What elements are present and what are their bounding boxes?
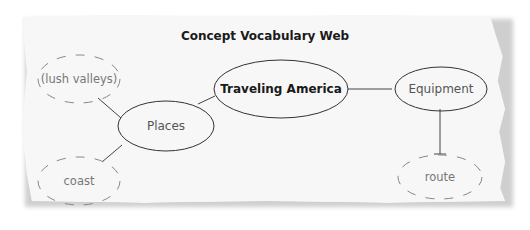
node-places[interactable]: Places xyxy=(118,101,214,151)
node-label-traveling-america: Traveling America xyxy=(220,82,342,96)
edge-center-places xyxy=(198,96,215,104)
node-label-coast: coast xyxy=(64,174,95,188)
node-equipment[interactable]: Equipment xyxy=(395,67,487,111)
node-traveling-america[interactable]: Traveling America xyxy=(214,60,348,118)
node-label-places: Places xyxy=(147,119,185,133)
node-label-route: route xyxy=(425,170,455,184)
edge-places-lush-valleys xyxy=(98,98,121,118)
node-lush-valleys[interactable]: (lush valleys) xyxy=(38,55,120,103)
node-label-lush-valleys: (lush valleys) xyxy=(41,72,118,86)
edge-places-coast xyxy=(102,145,122,162)
diagram-title: Concept Vocabulary Web xyxy=(181,29,350,43)
node-coast[interactable]: coast xyxy=(38,157,120,205)
concept-web: Concept Vocabulary Web Traveling America… xyxy=(0,0,530,230)
node-label-equipment: Equipment xyxy=(408,82,473,96)
node-route[interactable]: route xyxy=(398,155,482,199)
